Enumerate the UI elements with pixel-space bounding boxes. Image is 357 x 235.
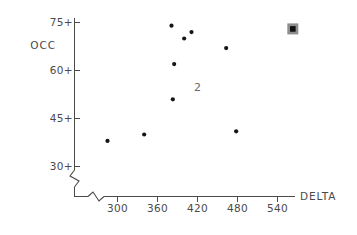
data-point[interactable]	[169, 24, 173, 28]
data-point[interactable]	[142, 132, 146, 136]
x-axis-label: DELTA	[300, 190, 336, 202]
overlap-count-label: 2	[194, 81, 201, 94]
x-tick-label-360: 360	[147, 202, 168, 214]
data-points-layer	[105, 23, 298, 143]
data-point[interactable]	[171, 97, 175, 101]
data-point[interactable]	[182, 36, 186, 40]
data-point[interactable]	[234, 129, 238, 133]
y-tick-label-75: 75+	[50, 16, 73, 28]
plot-canvas: 75+ 60+ 45+ 30+ OCC 300 360 420 480 540 …	[0, 0, 357, 235]
x-tick-label-300: 300	[107, 202, 128, 214]
selected-point-core	[290, 26, 296, 32]
data-point[interactable]	[105, 139, 109, 143]
data-point[interactable]	[189, 30, 193, 34]
y-axis-break-icon	[70, 170, 79, 187]
scatter-plot-figure: 75+ 60+ 45+ 30+ OCC 300 360 420 480 540 …	[0, 0, 357, 235]
data-point[interactable]	[172, 62, 176, 66]
data-point[interactable]	[224, 46, 228, 50]
x-tick-label-540: 540	[267, 202, 288, 214]
y-axis-ticks	[75, 23, 81, 167]
x-axis-break-icon	[88, 192, 104, 201]
y-tick-label-60: 60+	[50, 64, 73, 76]
y-axis-label: OCC	[30, 39, 56, 51]
y-tick-label-30: 30+	[50, 160, 73, 172]
x-axis-ticks	[118, 197, 278, 202]
annotations-layer: 2	[194, 81, 201, 94]
x-tick-label-420: 420	[187, 202, 208, 214]
selected-data-point[interactable]	[287, 23, 298, 34]
x-axis-tick-labels: 300 360 420 480 540	[107, 202, 288, 214]
x-tick-label-480: 480	[227, 202, 248, 214]
y-tick-label-45: 45+	[50, 112, 73, 124]
